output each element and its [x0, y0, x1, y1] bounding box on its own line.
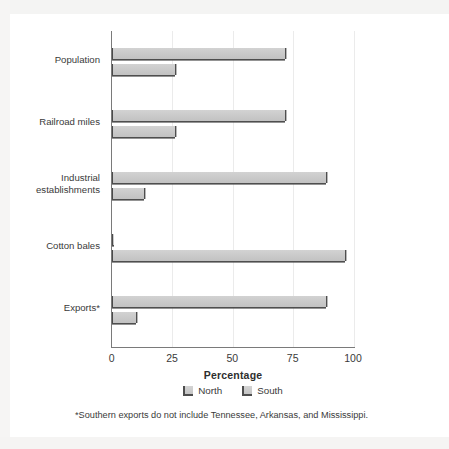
bar-population-south[interactable]: [112, 64, 175, 75]
legend-item-north[interactable]: North: [183, 385, 222, 396]
bar-exports-north[interactable]: [112, 296, 326, 307]
category-label-railroad-miles: Railroad miles: [0, 116, 100, 128]
bar-population-north[interactable]: [112, 48, 285, 59]
x-tick-label-0: 0: [92, 352, 132, 364]
legend-label-north: North: [198, 385, 222, 396]
bar-cotton-bales-north[interactable]: [112, 234, 114, 245]
x-axis-line: [111, 347, 355, 348]
bar-industrial-establishments-south[interactable]: [112, 188, 144, 199]
category-label-exports: Exports*: [0, 302, 100, 314]
bar-cotton-bales-south[interactable]: [112, 250, 345, 261]
bar-exports-south[interactable]: [112, 312, 136, 323]
x-axis-title: Percentage: [111, 369, 355, 381]
x-tick-label-75: 75: [273, 352, 313, 364]
legend-item-south[interactable]: South: [242, 385, 283, 396]
gridline-100: [354, 31, 355, 348]
bar-railroad-miles-south[interactable]: [112, 126, 175, 137]
x-tick-label-50: 50: [212, 352, 252, 364]
legend-swatch-south-icon: [242, 386, 252, 396]
bar-industrial-establishments-north[interactable]: [112, 172, 326, 183]
category-label-industrial-establishments: Industrial establishments: [0, 172, 100, 195]
category-label-cotton-bales: Cotton bales: [0, 240, 100, 252]
chart-legend: North South: [111, 385, 355, 396]
legend-swatch-north-icon: [183, 386, 193, 396]
x-tick-label-100: 100: [333, 352, 373, 364]
bar-chart-figure: Population Railroad miles Industrial est…: [0, 0, 449, 449]
legend-label-south: South: [257, 385, 283, 396]
x-tick-label-25: 25: [152, 352, 192, 364]
category-label-population: Population: [0, 54, 100, 66]
chart-footnote: *Southern exports do not include Tenness…: [0, 410, 449, 420]
plot-area: [111, 31, 354, 348]
bar-railroad-miles-north[interactable]: [112, 110, 285, 121]
